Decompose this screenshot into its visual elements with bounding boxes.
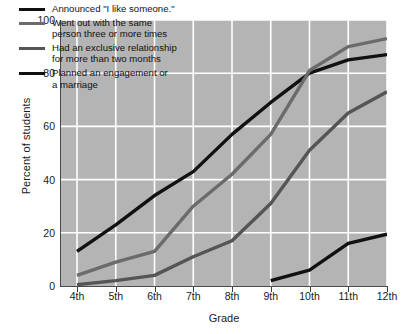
y-tick-label: 60 (25, 121, 55, 132)
x-tick-mark (116, 287, 117, 292)
x-tick-label: 8th (210, 291, 254, 302)
legend-line-icon (19, 22, 45, 25)
legend-label: Had an exclusive relationship for more t… (52, 42, 177, 65)
legend-item: Had an exclusive relationship for more t… (19, 42, 249, 65)
x-tick-mark (271, 287, 272, 292)
x-tick-label: 5th (94, 291, 138, 302)
x-tick-mark (232, 287, 233, 292)
x-axis-spine (60, 286, 388, 287)
x-tick-mark (387, 287, 388, 292)
x-tick-label: 12th (365, 291, 409, 302)
x-tick-label: 7th (171, 291, 215, 302)
x-tick-mark (348, 287, 349, 292)
x-tick-label: 6th (133, 291, 177, 302)
data-series-line (271, 234, 387, 281)
y-tick-label: 0 (25, 281, 55, 292)
legend-item: Went out with the same person three or m… (19, 17, 249, 40)
x-tick-mark (310, 287, 311, 292)
legend-label: Planned an engagement or a marriage (52, 67, 168, 90)
x-tick-label: 9th (249, 291, 293, 302)
x-tick-label: 11th (326, 291, 370, 302)
x-axis-title: Grade (61, 312, 387, 324)
legend-line-icon (19, 72, 45, 75)
x-tick-mark (77, 287, 78, 292)
x-tick-label: 10th (288, 291, 332, 302)
legend-line-icon (19, 8, 45, 11)
chart-figure: Percent of students 100806040200 4th5th6… (0, 0, 414, 334)
legend-item: Planned an engagement or a marriage (19, 67, 249, 90)
legend-item: Announced "I like someone." (19, 3, 249, 15)
y-tick-label: 40 (25, 175, 55, 186)
legend-label: Went out with the same person three or m… (52, 17, 167, 40)
legend-label: Announced "I like someone." (52, 3, 175, 15)
chart-legend: Announced "I like someone."Went out with… (19, 3, 249, 92)
x-tick-mark (155, 287, 156, 292)
x-tick-mark (193, 287, 194, 292)
x-tick-label: 4th (55, 291, 99, 302)
y-tick-label: 20 (25, 228, 55, 239)
legend-line-icon (19, 47, 45, 50)
